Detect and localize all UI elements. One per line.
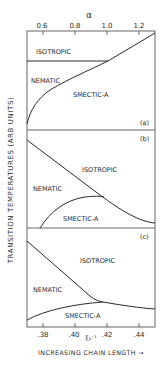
region-nematic-b: NEMATIC xyxy=(33,185,62,193)
top-tick-label: 0.8 xyxy=(69,22,80,30)
panel-tag-a: (a) xyxy=(140,119,149,127)
region-smectic-a-a: SMECTIC-A xyxy=(73,91,109,99)
region-nematic-c: NEMATIC xyxy=(33,286,62,294)
region-smectic-a-b: SMECTIC-A xyxy=(63,215,99,223)
top-tick-label: 1.2 xyxy=(133,22,144,30)
panel-tag-c: (c) xyxy=(140,233,149,241)
panel-c: ISOTROPIC NEMATIC SMECTIC-A (c) xyxy=(27,233,155,320)
bottom-tick-label: .40 xyxy=(68,331,79,339)
y-axis-label: TRANSITION TEMPERATURES (ARB UNITS) xyxy=(7,97,15,265)
panel-b: ISOTROPIC NEMATIC SMECTIC-A (b) xyxy=(27,135,155,228)
region-isotropic-a: ISOTROPIC xyxy=(36,48,72,56)
region-isotropic-c: ISOTROPIC xyxy=(80,257,116,265)
region-nematic-a: NEMATIC xyxy=(31,77,60,85)
bottom-tick-label: .42 xyxy=(101,331,112,339)
plot-frame xyxy=(27,31,155,327)
bottom-tick-label: .38 xyxy=(37,331,48,339)
nem-iso-line-b xyxy=(27,140,155,223)
region-isotropic-b: ISOTROPIC xyxy=(82,166,118,174)
bottom-tick-label: .44 xyxy=(133,331,145,339)
x-axis-label: INCREASING CHAIN LENGTH → xyxy=(38,349,144,356)
nem-sma-line-b xyxy=(40,196,104,228)
xi-axis-label: ξ₀⁻¹ xyxy=(85,334,97,342)
panel-tag-b: (b) xyxy=(140,135,149,143)
alpha-axis-label: α xyxy=(86,10,92,20)
bottom-axis: .38 .40 .42 .44 ξ₀⁻¹ INCREASING CHAIN LE… xyxy=(37,323,145,356)
region-smectic-a-c: SMECTIC-A xyxy=(65,312,101,320)
top-tick-label: 0.6 xyxy=(36,22,48,30)
panel-a: ISOTROPIC NEMATIC SMECTIC-A (a) xyxy=(27,33,155,127)
top-tick-label: 1.0 xyxy=(101,22,112,30)
phase-diagram-figure: α 0.6 0.8 1.0 1.2 TRANSITION TEMPERATURE… xyxy=(0,0,162,367)
